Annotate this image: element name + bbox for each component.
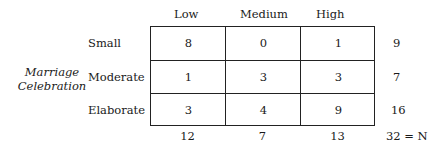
column-header-low: Low — [174, 7, 198, 21]
row-total: 9 — [393, 36, 400, 50]
row-total: 7 — [393, 70, 400, 84]
table-cell: 1 — [301, 36, 376, 50]
grid-divider — [151, 93, 374, 94]
row-label-small: Small — [88, 36, 121, 50]
row-variable-line-1: Marriage — [12, 65, 92, 79]
table-cell: 3 — [226, 70, 301, 84]
column-total: 12 — [150, 129, 225, 143]
table-cell: 3 — [301, 70, 376, 84]
table-cell: 8 — [151, 36, 226, 50]
row-label-elaborate: Elaborate — [88, 103, 145, 117]
column-header-medium: Medium — [240, 7, 288, 21]
row-total: 16 — [391, 103, 406, 117]
table-cell: 3 — [151, 103, 226, 117]
table-cell: 0 — [226, 36, 301, 50]
table-cell: 1 — [151, 70, 226, 84]
table-grid: 8 0 1 1 3 3 3 4 9 — [150, 26, 375, 126]
table-cell: 9 — [301, 103, 376, 117]
table-cell: 4 — [226, 103, 301, 117]
column-total: 7 — [225, 129, 300, 143]
grid-divider — [151, 60, 374, 61]
row-variable-label: Marriage Celebration — [12, 65, 92, 93]
column-total: 13 — [300, 129, 375, 143]
row-label-moderate: Moderate — [88, 70, 145, 84]
grand-total: 32 = N — [386, 129, 428, 143]
row-variable-line-2: Celebration — [12, 79, 92, 93]
column-header-high: High — [316, 7, 344, 21]
